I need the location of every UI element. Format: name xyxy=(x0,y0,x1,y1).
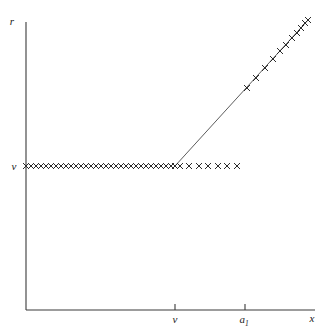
x-tick-label-a1-subscript: 1 xyxy=(245,319,249,328)
x-axis-label: x xyxy=(309,312,315,324)
x-tick-label-a1: a1 xyxy=(239,313,248,328)
rising-segment-markers xyxy=(244,17,311,91)
chart-plot: r v v a1 x xyxy=(0,0,328,333)
y-axis-value-label-v: v xyxy=(12,160,17,172)
x-tick-label-v: v xyxy=(173,313,178,325)
rising-line-segment xyxy=(175,19,309,166)
flat-segment-markers-dense xyxy=(23,163,178,169)
flat-segment-markers-sparse xyxy=(177,163,240,169)
figure-container: r v v a1 x xyxy=(0,0,328,333)
y-axis-label: r xyxy=(10,15,15,27)
